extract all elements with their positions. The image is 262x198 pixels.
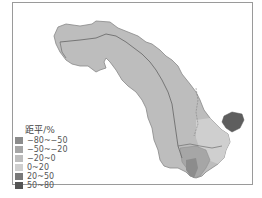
legend-item: 20~50 — [15, 172, 65, 181]
legend-swatch — [15, 146, 23, 153]
legend-label: −80~−50 — [27, 136, 67, 145]
legend-item: −20~0 — [15, 154, 65, 163]
legend-item: 0~20 — [15, 163, 65, 172]
legend-label: −50~−20 — [27, 145, 67, 154]
legend-swatch — [15, 164, 23, 171]
legend-swatch — [15, 182, 23, 189]
basin-subregion-high — [222, 112, 244, 132]
legend-label: 20~50 — [27, 172, 54, 181]
legend-item: −50~−20 — [15, 145, 65, 154]
legend-swatch — [15, 155, 23, 162]
legend-label: −20~0 — [27, 154, 56, 163]
legend-swatch — [15, 137, 23, 144]
legend-swatch — [15, 173, 23, 180]
legend: 距平/% −80~−50 −50~−20 −20~0 0~20 20~50 50… — [15, 126, 65, 190]
legend-label: 50~80 — [27, 181, 54, 190]
legend-item: 50~80 — [15, 181, 65, 190]
legend-item: −80~−50 — [15, 136, 65, 145]
legend-title: 距平/% — [15, 126, 65, 135]
legend-label: 0~20 — [27, 163, 49, 172]
